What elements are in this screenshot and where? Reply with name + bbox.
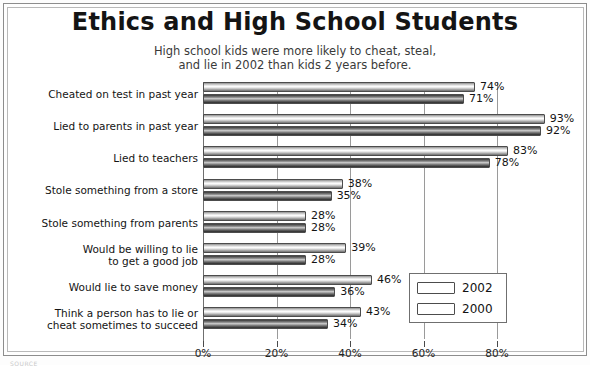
bar-2000-4[interactable] [203, 223, 306, 233]
category-label-5: Would be willing to lieto get a good job [83, 243, 198, 268]
bar-2000-0[interactable] [203, 94, 464, 104]
bar-2002-0[interactable] [203, 82, 475, 92]
category-label-line: Would be willing to lie [83, 243, 198, 256]
category-label-line: Stole something from parents [41, 217, 198, 230]
category-label-line: cheat sometimes to succeed [47, 319, 198, 332]
category-label-line: Stole something from a store [45, 184, 198, 197]
bar-value-label-2000-7: 34% [333, 317, 357, 330]
category-label-1: Lied to parents in past year [53, 120, 198, 133]
bar-2000-2[interactable] [203, 158, 490, 168]
bar-2002-7[interactable] [203, 307, 361, 317]
category-label-column: Cheated on test in past yearLied to pare… [10, 82, 198, 339]
bar-2002-1[interactable] [203, 114, 545, 124]
category-label-line: Would lie to save money [69, 281, 198, 294]
chart-subtitle-line-1: High school kids were more likely to che… [0, 44, 590, 58]
bar-series-container: 74%93%83%38%28%39%46%43%71%92%78%35%28%2… [203, 82, 590, 339]
category-label-7: Think a person has to lie orcheat someti… [47, 307, 198, 332]
category-label-line: Cheated on test in past year [48, 88, 198, 101]
bar-2000-3[interactable] [203, 191, 332, 201]
category-label-2: Lied to teachers [113, 152, 198, 165]
category-label-6: Would lie to save money [69, 281, 198, 294]
page-title: Ethics and High School Students [0, 8, 590, 36]
chart-legend: 20022000 [409, 273, 507, 323]
bar-value-label-2000-4: 28% [311, 221, 335, 234]
category-label-4: Stole something from parents [41, 217, 198, 230]
bar-value-label-2000-6: 36% [340, 285, 364, 298]
chart-subtitle-line-2: and lie in 2002 than kids 2 years before… [0, 58, 590, 72]
category-label-0: Cheated on test in past year [48, 88, 198, 101]
category-label-line: to get a good job [83, 255, 198, 268]
dark-cylinder-swatch [417, 303, 455, 315]
x-axis-tick-label-40: 40% [338, 347, 361, 359]
bar-value-label-2002-6: 46% [377, 273, 401, 286]
chart-subtitle: High school kids were more likely to che… [0, 44, 590, 72]
legend-label-2002: 2002 [462, 281, 493, 295]
category-label-line: Lied to parents in past year [53, 120, 198, 133]
bar-2000-5[interactable] [203, 255, 306, 265]
category-label-line: Lied to teachers [113, 152, 198, 165]
bar-value-label-2000-3: 35% [337, 189, 361, 202]
bar-2002-2[interactable] [203, 146, 508, 156]
category-label-line: Think a person has to lie or [47, 307, 198, 320]
legend-label-2000: 2000 [462, 302, 493, 316]
bar-2002-6[interactable] [203, 275, 372, 285]
light-cylinder-swatch [417, 282, 455, 294]
bar-2002-5[interactable] [203, 243, 346, 253]
bar-value-label-2000-1: 92% [546, 124, 570, 137]
bar-2000-7[interactable] [203, 319, 328, 329]
bar-2000-1[interactable] [203, 126, 541, 136]
x-axis-tick-label-60: 60% [412, 347, 435, 359]
bar-2002-4[interactable] [203, 211, 306, 221]
x-axis-tick-label-80: 80% [485, 347, 508, 359]
bar-2002-3[interactable] [203, 179, 343, 189]
category-label-3: Stole something from a store [45, 184, 198, 197]
bar-value-label-2000-2: 78% [495, 156, 519, 169]
x-axis-tick-label-20: 20% [265, 347, 288, 359]
bar-value-label-2002-7: 43% [366, 305, 390, 318]
source-note: SOURCE [10, 360, 38, 367]
bar-2000-6[interactable] [203, 287, 335, 297]
x-axis-tick-label-0: 0% [195, 347, 212, 359]
bar-value-label-2000-0: 71% [469, 92, 493, 105]
bar-value-label-2000-5: 28% [311, 253, 335, 266]
bar-value-label-2002-5: 39% [351, 241, 375, 254]
